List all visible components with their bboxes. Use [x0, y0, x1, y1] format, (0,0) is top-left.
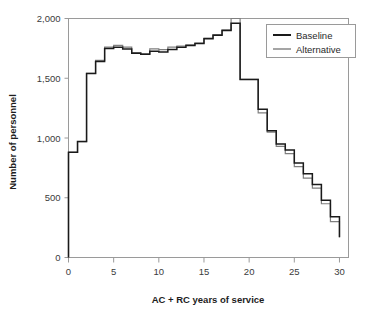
legend-label-baseline: Baseline [296, 30, 332, 41]
x-axis-tick-label: 15 [199, 266, 210, 277]
legend-label-alternative: Alternative [296, 44, 341, 55]
chart-legend: BaselineAlternative [267, 25, 356, 58]
x-axis-title: AC + RC years of service [152, 294, 265, 305]
y-axis-title: Number of personnel [7, 94, 18, 190]
chart-svg: 05001,0001,5002,000 051015202530 Baselin… [0, 0, 371, 311]
chart-figure: 05001,0001,5002,000 051015202530 Baselin… [0, 0, 371, 311]
x-axis-tick-label: 10 [154, 266, 165, 277]
x-axis-tick-label: 30 [334, 266, 345, 277]
y-axis-tick-label: 500 [45, 192, 61, 203]
x-axis-tick-label: 20 [244, 266, 255, 277]
y-axis-tick-label: 1,000 [37, 133, 61, 144]
x-axis-tick-label: 25 [289, 266, 300, 277]
y-axis-tick-label: 2,000 [37, 13, 61, 24]
y-axis-tick-label: 1,500 [37, 73, 61, 84]
y-axis-tick-label: 0 [55, 252, 60, 263]
x-axis-tick-label: 5 [111, 266, 116, 277]
x-axis-tick-label: 0 [66, 266, 71, 277]
